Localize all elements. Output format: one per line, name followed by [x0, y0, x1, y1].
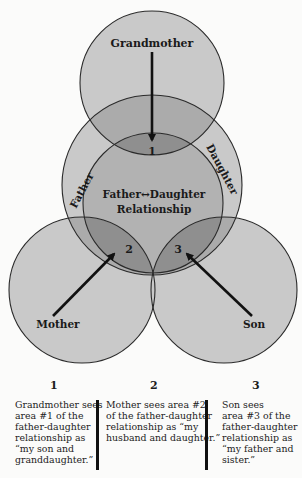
caption-number: 3 [252, 380, 260, 391]
captions: 1 Grandmother sees area #1 of the father… [0, 380, 302, 478]
label-relationship-line2: Relationship [117, 203, 192, 215]
label-son: Son [243, 318, 266, 330]
label-mother: Mother [36, 318, 80, 330]
caption-text: Grandmother sees area #1 of the father-d… [15, 399, 103, 465]
caption-number: 1 [50, 380, 58, 391]
label-area-2: 2 [125, 243, 133, 256]
venn-diagram: Grandmother 1 Father Daughter Father↔Dau… [0, 0, 302, 380]
divider [96, 400, 99, 470]
label-relationship-line1: Father↔Daughter [103, 188, 206, 200]
caption-number: 2 [150, 380, 158, 391]
caption-text: Mother sees area #2 of the father-daught… [106, 399, 220, 443]
label-grandmother: Grandmother [111, 37, 194, 50]
divider [205, 400, 208, 470]
label-area-3: 3 [174, 243, 182, 256]
caption-text: Son sees area #3 of the father-daughter … [222, 399, 298, 465]
label-area-1: 1 [148, 145, 156, 158]
